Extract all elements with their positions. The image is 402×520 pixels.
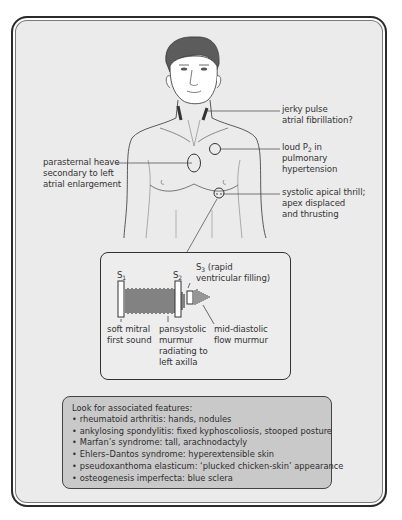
associated-features-box: Look for associated features: •rheumatoi… (62, 396, 332, 489)
feature-item: •Marfan’s syndrome: tall, arachnodactyly (72, 437, 343, 449)
feature-item: •rheumatoid arthritis: hands, nodules (72, 414, 343, 426)
features-title: Look for associated features: (72, 403, 343, 414)
s1-label: S1 (117, 270, 126, 281)
feature-item: •osteogenesis imperfecta: blue sclera (72, 473, 343, 485)
s1-caption: soft mitral first sound (107, 324, 152, 346)
feature-item: •ankylosing spondylitis: fixed kyphoscol… (72, 426, 343, 438)
s3-label: S3 (rapid ventricular filling) (196, 262, 270, 284)
feature-item: •Ehlers–Dantos syndrome: hyperextensible… (72, 449, 343, 461)
murmur-caption: pansystolic murmur radiating to left axi… (159, 324, 208, 368)
feature-item: •pseudoxanthoma elasticum: ‘plucked chic… (72, 461, 343, 473)
s2-label: S2 (173, 270, 182, 281)
diastolic-caption: mid-diastolic flow murmur (214, 324, 268, 346)
